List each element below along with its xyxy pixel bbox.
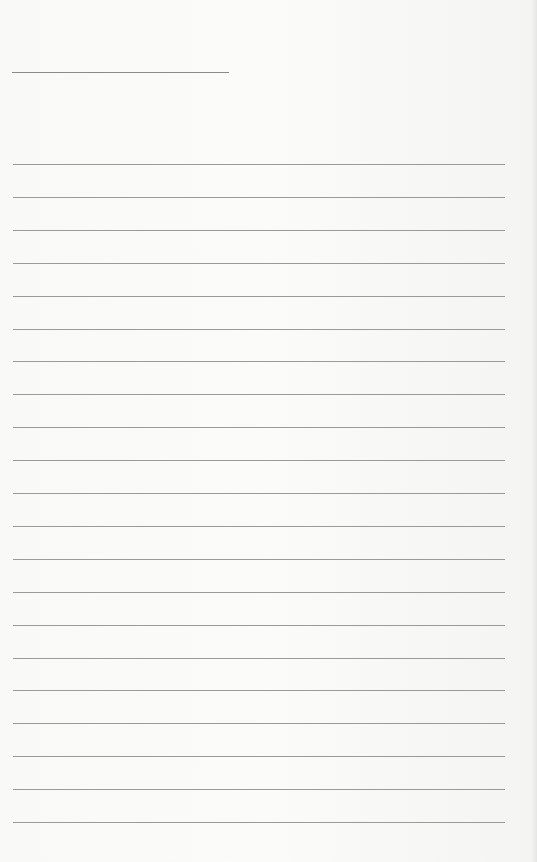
ruled-line: [13, 329, 505, 330]
ruled-line: [13, 427, 505, 428]
ruled-line: [13, 822, 505, 823]
lined-paper-sheet: [0, 0, 537, 862]
ruled-line: [13, 789, 505, 790]
ruled-line: [13, 361, 505, 362]
paper-edge-shadow: [531, 0, 537, 862]
header-name-line: [12, 72, 229, 73]
ruled-line: [13, 493, 505, 494]
ruled-line: [13, 658, 505, 659]
ruled-line: [13, 690, 505, 691]
ruled-line: [13, 723, 505, 724]
ruled-line: [13, 197, 505, 198]
ruled-line: [13, 559, 505, 560]
ruled-line: [13, 263, 505, 264]
ruled-line: [13, 230, 505, 231]
ruled-line: [13, 625, 505, 626]
ruled-line: [13, 756, 505, 757]
ruled-line: [13, 296, 505, 297]
ruled-line: [13, 526, 505, 527]
ruled-line: [13, 592, 505, 593]
ruled-line: [13, 164, 505, 165]
ruled-line: [13, 460, 505, 461]
ruled-line: [13, 394, 505, 395]
